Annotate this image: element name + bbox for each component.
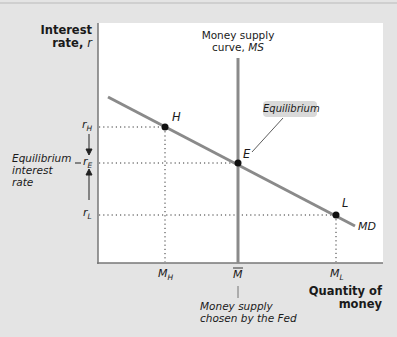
equilibrium-rate-label: Equilibrium interest rate xyxy=(12,152,72,188)
ms-label-line1: Money supply xyxy=(196,29,280,41)
fed-label: Money supply chosen by the Fed xyxy=(200,300,297,324)
tick-m-bar: M xyxy=(233,269,243,281)
point-l-label: L xyxy=(342,197,348,209)
ms-label: Money supply curve, MS xyxy=(196,29,280,53)
point-h-label: H xyxy=(172,111,181,123)
y-axis-title-line2: rate, r xyxy=(40,37,92,50)
tick-r-l: rL xyxy=(83,207,92,223)
y-axis-variable: r xyxy=(87,36,92,50)
tick-m-l: ML xyxy=(330,268,344,284)
x-axis-title-line2: money xyxy=(300,298,382,311)
ms-label-text: curve, xyxy=(212,41,248,53)
eq-rate-line2: interest xyxy=(12,164,72,176)
tick-m-l-sub: L xyxy=(340,273,344,282)
tick-m-h-sub: H xyxy=(168,273,174,282)
tick-r-l-sub: L xyxy=(88,212,92,221)
point-e xyxy=(235,160,242,167)
y-axis-title: Interest rate, r xyxy=(40,24,92,50)
ms-variable: MS xyxy=(248,41,264,53)
y-axis-title-text: rate, xyxy=(52,36,87,50)
equilibrium-callout: Equilibrium xyxy=(263,103,317,115)
eq-rate-line3: rate xyxy=(12,176,72,188)
fed-label-line1: Money supply xyxy=(200,300,297,312)
md-label: MD xyxy=(358,221,376,233)
tick-r-e: rE xyxy=(83,156,92,172)
tick-m-h-text: M xyxy=(158,267,168,280)
tick-m-l-text: M xyxy=(330,267,340,280)
point-e-label: E xyxy=(243,148,250,160)
eq-rate-line1: Equilibrium xyxy=(12,152,72,164)
tick-r-h: rH xyxy=(82,119,92,135)
point-h xyxy=(162,124,169,131)
x-axis-title: Quantity of money xyxy=(300,285,382,311)
tick-r-h-sub: H xyxy=(87,124,93,133)
fed-label-line2: chosen by the Fed xyxy=(200,312,297,324)
point-l xyxy=(333,212,340,219)
tick-r-e-sub: E xyxy=(88,161,93,170)
plot-area xyxy=(98,23,383,263)
tick-m-h: MH xyxy=(158,268,173,284)
ms-label-line2: curve, MS xyxy=(196,41,280,53)
